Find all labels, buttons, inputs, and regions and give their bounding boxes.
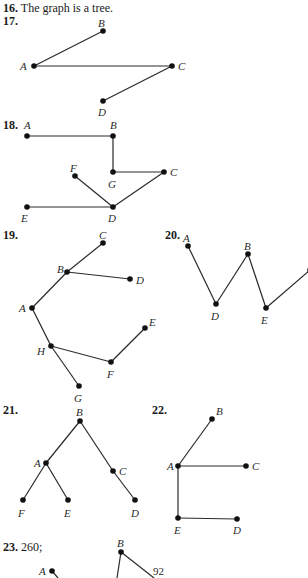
edge-AB [178,419,212,466]
vertex-label-B: B [76,406,83,418]
vertex-dot-C [243,463,249,469]
vertex-label-E: E [174,524,181,536]
vertex-dot-E [24,204,30,210]
tree-diagrams [0,0,308,578]
vertex-dot-C [169,63,175,69]
vertex-dot-G [76,383,82,389]
vertex-label-D: D [108,212,116,224]
vertex-dot-E [263,305,269,311]
vertex-dot-B [64,269,70,275]
vertex-label-C: C [99,229,106,241]
vertex-dot-F [108,359,114,365]
vertex-label-G: G [108,178,116,190]
graph-fig23 [49,549,154,578]
vertex-dot-A [49,568,55,574]
vertex-label-B: B [57,263,64,275]
vertex-label-E: E [149,316,156,328]
edge-AD [188,246,216,304]
vertex-dot-E [175,515,181,521]
vertex-label-A: A [20,60,27,72]
vertex-dot-B [118,549,124,555]
vertex-dot-A [185,243,191,249]
vertex-dot-F [72,173,78,179]
vertex-label-B: B [216,405,223,417]
vertex-label-F: F [70,162,77,174]
edge-partial [121,552,154,578]
edge-ED [178,518,237,519]
vertex-dot-F [20,497,26,503]
edge-DB [216,254,248,304]
graph-fig19 [29,240,148,389]
vertex-label-B: B [98,17,105,29]
vertex-label-F: F [18,507,25,519]
graph-fig17 [31,28,175,104]
vertex-label-C: C [252,460,259,472]
edge-FE [111,328,145,362]
edge-CD [113,172,164,207]
vertex-dot-B [100,28,106,34]
vertex-dot-D [110,204,116,210]
edge-BD [67,272,130,279]
vertex-label-D: D [211,310,219,322]
edge-AH [32,308,51,346]
edge-AB [34,31,103,66]
vertex-label-D: D [233,524,241,536]
vertex-label-D: D [98,106,106,118]
vertex-dot-A [29,305,35,311]
edge-Ex [266,270,308,308]
vertex-dot-D [213,301,219,307]
edge-AE [46,463,68,500]
edge-BC [80,421,113,471]
vertex-dot-B [209,416,215,422]
vertex-label-H: H [37,345,45,357]
vertex-label-C: C [178,60,185,72]
edge-BE [248,254,266,308]
edge-CD [103,66,172,101]
vertex-dot-B [110,133,116,139]
vertex-label-C: C [170,166,177,178]
edge-BA [46,421,80,463]
vertex-label-A: A [39,565,46,577]
vertex-dot-B [245,251,251,257]
vertex-label-A: A [24,119,31,131]
vertex-dot-A [43,460,49,466]
vertex-label-B: B [110,119,117,131]
vertex-dot-C [161,169,167,175]
edge-weight-label: 92 [153,565,164,577]
vertex-dot-G [110,169,116,175]
graph-fig20 [185,243,308,311]
vertex-dot-E [142,325,148,331]
vertex-label-A: A [183,232,190,244]
edge-BA [32,272,67,308]
vertex-label-B: B [117,537,124,549]
vertex-label-C: C [119,465,126,477]
vertex-dot-D [100,98,106,104]
vertex-dot-D [132,497,138,503]
vertex-label-E: E [21,212,28,224]
vertex-label-B: B [244,240,251,252]
vertex-label-E: E [261,314,268,326]
vertex-label-A: A [167,460,174,472]
vertex-label-F: F [107,368,114,380]
graph-fig22 [175,416,249,522]
vertex-dot-A [24,133,30,139]
graph-fig18 [24,133,167,210]
vertex-dot-H [48,343,54,349]
vertex-dot-B [77,418,83,424]
vertex-label-A: A [19,302,26,314]
vertex-label-G: G [74,392,82,404]
vertex-label-D: D [136,274,144,286]
vertex-label-A: A [34,457,41,469]
edge-CB [67,243,103,272]
vertex-dot-A [31,63,37,69]
vertex-dot-D [234,516,240,522]
vertex-dot-C [100,240,106,246]
edge-partial [117,552,121,578]
vertex-label-E: E [64,507,71,519]
vertex-dot-D [127,276,133,282]
vertex-dot-C [110,468,116,474]
vertex-label-D: D [131,507,139,519]
vertex-dot-A [175,463,181,469]
vertex-dot-E [65,497,71,503]
